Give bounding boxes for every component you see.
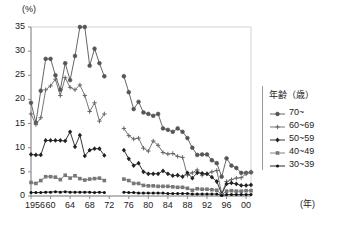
x-axis-tick-label: 68: [80, 200, 100, 210]
x-axis-tick-label: 72: [99, 200, 119, 210]
square-marker-icon: [268, 145, 288, 157]
x-axis-tick-label: 76: [119, 200, 139, 210]
legend-item-4049[interactable]: 40~49: [268, 144, 346, 157]
legend-item-label: 30~39: [289, 159, 314, 169]
x-axis-tick-label: 84: [158, 200, 178, 210]
x-axis-tick-label: 92: [197, 200, 217, 210]
legend-item-label: 60~69: [289, 120, 314, 130]
x-axis-tick-label: 00: [236, 200, 256, 210]
x-axis-tick-label: 64: [60, 200, 80, 210]
y-axis-tick-label: 30: [3, 45, 25, 55]
x-axis-tick-label: 80: [138, 200, 158, 210]
x-axis-tick-label: 88: [177, 200, 197, 210]
y-axis-tick-label: 0: [3, 190, 25, 200]
y-axis-tick-label: 5: [3, 166, 25, 176]
y-axis-tick-label: 35: [3, 21, 25, 31]
legend-item-label: 70~: [289, 107, 304, 117]
series-70: [29, 25, 253, 178]
legend-divider: [262, 86, 263, 170]
diamond-marker-icon: [268, 132, 288, 144]
legend-item-label: 40~49: [289, 146, 314, 156]
chart-container: (%) (年) 年齢（歳） 70~60~6950~5940~4930~39 05…: [0, 0, 347, 235]
legend-item-3039[interactable]: 30~39: [268, 157, 346, 170]
x-axis-tick-label: 96: [217, 200, 237, 210]
y-axis-tick-label: 25: [3, 69, 25, 79]
legend-item-5059[interactable]: 50~59: [268, 131, 346, 144]
x-axis-tick-label: 60: [41, 200, 61, 210]
chart-legend: 年齢（歳） 70~60~6950~5940~4930~39: [268, 88, 346, 170]
y-axis-tick-label: 15: [3, 118, 25, 128]
legend-rows: 70~60~6950~5940~4930~39: [268, 105, 346, 170]
legend-item-label: 50~59: [289, 133, 314, 143]
y-axis-tick-label: 10: [3, 142, 25, 152]
legend-title: 年齢（歳）: [269, 88, 346, 101]
y-axis-tick-label: 20: [3, 93, 25, 103]
legend-item-6069[interactable]: 60~69: [268, 118, 346, 131]
circle-marker-icon: [268, 106, 288, 118]
series-layer: [29, 25, 253, 197]
legend-item-70[interactable]: 70~: [268, 105, 346, 118]
cross-marker-icon: [268, 119, 288, 131]
dot-marker-icon: [268, 158, 288, 170]
series-5059: [29, 129, 253, 196]
